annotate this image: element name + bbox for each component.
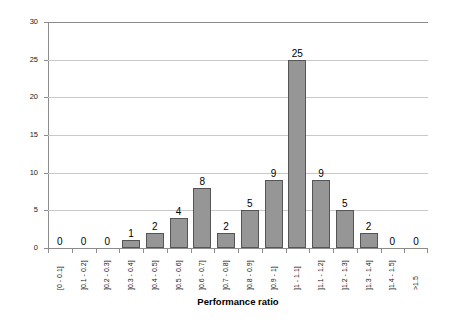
- y-tick-label: 15: [16, 131, 38, 139]
- x-tick-mark: [404, 249, 405, 253]
- x-label-slot: ]0.9 - 1]: [262, 254, 286, 294]
- x-tick-mark: [143, 249, 144, 253]
- x-tick-label: ]0.5 - 0.6]: [175, 260, 183, 290]
- x-tick-label: ]1.2 - 1.3]: [341, 260, 349, 290]
- x-label-slot: ]0.5 - 0.6]: [167, 254, 191, 294]
- x-label-slot: ]0.1 - 0.2]: [72, 254, 96, 294]
- x-tick-label: ]0.7 - 0.8]: [222, 260, 230, 290]
- x-label-slot: ]1.1 - 1.2]: [309, 254, 333, 294]
- bar-value-label: 4: [167, 206, 191, 217]
- x-tick-mark: [357, 249, 358, 253]
- x-tick-mark: [262, 249, 263, 253]
- x-tick-label: ]1.3 - 1.4]: [365, 260, 373, 290]
- bar-value-label: 5: [238, 198, 262, 209]
- bar: [288, 60, 306, 248]
- x-tick-label: ]0.2 - 0.3]: [103, 260, 111, 290]
- x-label-slot: [0 - 0.1]: [48, 254, 72, 294]
- bar: [170, 218, 188, 248]
- bar: [193, 188, 211, 248]
- bar-value-label: 2: [143, 221, 167, 232]
- x-tick-mark: [214, 249, 215, 253]
- x-label-slot: >1.5: [404, 254, 428, 294]
- x-tick-label: >1.5: [412, 276, 420, 290]
- bar-value-label: 9: [262, 168, 286, 179]
- bar-value-label: 0: [381, 236, 405, 247]
- bar-slot: 0: [96, 22, 120, 248]
- x-tick-label: ]1.1 - 1.2]: [317, 260, 325, 290]
- x-tick-label: ]0.1 - 0.2]: [80, 260, 88, 290]
- x-label-slot: ]0.7 - 0.8]: [214, 254, 238, 294]
- x-tick-label: ]0.9 - 1]: [270, 266, 278, 290]
- y-tick-label: 30: [16, 18, 38, 26]
- bar-slot: 4: [167, 22, 191, 248]
- bar-slot: 2: [214, 22, 238, 248]
- bar-slot: 9: [309, 22, 333, 248]
- x-tick-mark: [333, 249, 334, 253]
- bar: [146, 233, 164, 248]
- y-axis-ticks: 051015202530: [0, 0, 48, 320]
- x-tick-label: ]0.6 - 0.7]: [198, 260, 206, 290]
- bar: [265, 180, 283, 248]
- bar: [122, 240, 140, 248]
- y-tick-label: 10: [16, 169, 38, 177]
- y-tick-label: 0: [16, 244, 38, 252]
- x-tick-mark: [167, 249, 168, 253]
- x-axis-title: Performance ratio: [48, 296, 428, 307]
- y-tick-label: 5: [16, 206, 38, 214]
- x-tick-label: ]1.4 - 1.5]: [388, 260, 396, 290]
- bar-slot: 2: [143, 22, 167, 248]
- x-label-slot: ]1.4 - 1.5]: [381, 254, 405, 294]
- bar: [336, 210, 354, 248]
- y-tick-label: 25: [16, 56, 38, 64]
- bar-slot: 8: [191, 22, 215, 248]
- y-tick-label: 20: [16, 93, 38, 101]
- bar: [312, 180, 330, 248]
- x-tick-label: ]0.8 - 0.9]: [246, 260, 254, 290]
- bar-value-label: 0: [96, 236, 120, 247]
- bar: [217, 233, 235, 248]
- x-axis-tick-labels: [0 - 0.1]]0.1 - 0.2]]0.2 - 0.3]]0.3 - 0.…: [48, 254, 428, 294]
- bar-chart: Number of experiments 051015202530 00012…: [0, 0, 452, 320]
- x-label-slot: ]1.2 - 1.3]: [333, 254, 357, 294]
- x-tick-mark: [191, 249, 192, 253]
- bar-value-label: 8: [191, 176, 215, 187]
- bar-value-label: 1: [119, 228, 143, 239]
- bar-slot: 25: [286, 22, 310, 248]
- bar-slot: 5: [238, 22, 262, 248]
- bar-slot: 0: [48, 22, 72, 248]
- x-label-slot: ]1.3 - 1.4]: [357, 254, 381, 294]
- x-tick-mark: [48, 249, 49, 253]
- bar-slot: 2: [357, 22, 381, 248]
- x-tick-mark: [119, 249, 120, 253]
- x-tick-label: ]0.3 - 0.4]: [127, 260, 135, 290]
- bar-slot: 5: [333, 22, 357, 248]
- x-label-slot: ]0.3 - 0.4]: [119, 254, 143, 294]
- bar-value-label: 25: [286, 48, 310, 59]
- bar: [360, 233, 378, 248]
- bar-slot: 0: [404, 22, 428, 248]
- x-tick-mark: [96, 249, 97, 253]
- x-tick-label: [0 - 0.1]: [56, 266, 64, 290]
- plot-area: 00012482592595200: [48, 22, 428, 248]
- bar-value-label: 2: [214, 221, 238, 232]
- x-tick-mark: [309, 249, 310, 253]
- x-tick-mark: [427, 249, 428, 253]
- bar-value-label: 0: [72, 236, 96, 247]
- x-label-slot: ]0.4 - 0.5]: [143, 254, 167, 294]
- x-label-slot: ]0.2 - 0.3]: [96, 254, 120, 294]
- x-label-slot: ]1 - 1.1]: [286, 254, 310, 294]
- bar-value-label: 5: [333, 198, 357, 209]
- bar-value-label: 9: [309, 168, 333, 179]
- bar-value-label: 2: [357, 221, 381, 232]
- bar-value-label: 0: [48, 236, 72, 247]
- x-label-slot: ]0.8 - 0.9]: [238, 254, 262, 294]
- bar-slot: 9: [262, 22, 286, 248]
- bar-slot: 0: [381, 22, 405, 248]
- x-tick-mark: [286, 249, 287, 253]
- bar-slot: 0: [72, 22, 96, 248]
- x-label-slot: ]0.6 - 0.7]: [191, 254, 215, 294]
- x-tick-label: ]0.4 - 0.5]: [151, 260, 159, 290]
- x-tick-mark: [72, 249, 73, 253]
- x-tick-mark: [381, 249, 382, 253]
- x-tick-label: ]1 - 1.1]: [293, 266, 301, 290]
